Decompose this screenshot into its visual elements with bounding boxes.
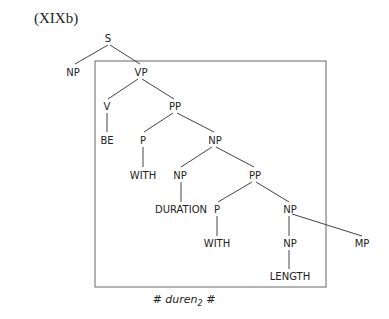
tree-edges — [75, 45, 362, 269]
syntax-tree-diagram: (XIXb) S NP VP V PP BE P NP WITH NP PP D… — [0, 0, 389, 319]
edge-vp-v — [108, 79, 138, 99]
node-pp: PP — [169, 101, 181, 112]
tree-nodes: S NP VP V PP BE P NP WITH NP PP DURATION… — [66, 33, 369, 282]
edge-pp-p2 — [218, 182, 252, 202]
node-np: NP — [208, 135, 222, 146]
node-np: NP — [283, 238, 297, 249]
node-mp: MP — [355, 238, 370, 249]
node-vp: VP — [135, 67, 148, 78]
edge-np-mp — [292, 214, 362, 236]
node-p: P — [214, 204, 220, 215]
edge-vp-pp — [142, 79, 174, 99]
edge-pp-np — [177, 113, 214, 132]
node-np: NP — [283, 204, 297, 215]
node-be: BE — [100, 135, 113, 146]
edge-pp-p — [144, 113, 173, 132]
edge-np-np — [181, 147, 212, 167]
node-duration: DURATION — [155, 204, 207, 215]
node-with: WITH — [204, 238, 230, 249]
node-length: LENGTH — [270, 271, 310, 282]
figure-label: (XIXb) — [34, 10, 78, 27]
edge-np-pp — [216, 147, 254, 167]
node-np: NP — [66, 67, 80, 78]
edge-pp-np2 — [256, 182, 289, 202]
figure-caption: # duren2 # — [153, 293, 216, 308]
node-np: NP — [173, 170, 187, 181]
node-with: WITH — [130, 170, 156, 181]
caption-suffix: # — [203, 293, 216, 306]
node-pp: PP — [249, 170, 261, 181]
node-p: P — [140, 135, 146, 146]
node-v: V — [104, 101, 111, 112]
node-s: S — [105, 33, 111, 44]
caption-prefix: # duren — [153, 293, 198, 306]
